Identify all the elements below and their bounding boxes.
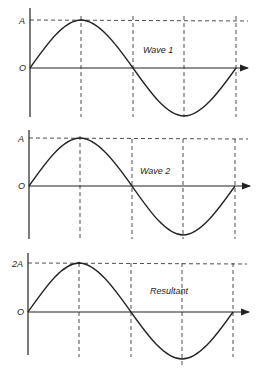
wave-superposition-diagram: A O Wave 1 A O Wave 2 2A O Resultant [0, 0, 263, 378]
panel-wave-2: A O Wave 2 [17, 130, 250, 239]
amplitude-guide [28, 263, 247, 264]
peak-marker [78, 262, 81, 265]
wave-title: Resultant [150, 286, 189, 296]
amplitude-guide [29, 138, 248, 139]
panel-wave-1: A O Wave 1 [18, 8, 248, 117]
origin-label: O [18, 181, 25, 191]
amplitude-label: A [18, 16, 25, 26]
amplitude-guide [30, 20, 248, 21]
panel-resultant: 2A O Resultant [11, 253, 249, 366]
origin-label: O [19, 63, 26, 73]
wave-title: Wave 2 [140, 166, 170, 176]
wave-title: Wave 1 [143, 45, 173, 55]
origin-label: O [17, 307, 24, 317]
resultant-curve [28, 263, 233, 359]
amplitude-label: A [17, 134, 24, 144]
amplitude-label: 2A [11, 259, 23, 269]
